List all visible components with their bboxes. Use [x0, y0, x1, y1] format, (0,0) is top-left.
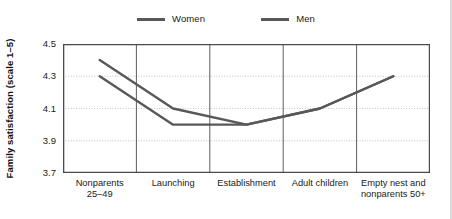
y-tick-label-3.9: 3.9 — [43, 136, 56, 146]
legend-label-women: Women — [172, 14, 205, 24]
y-axis-tick-labels: 4.54.34.13.93.7 — [20, 38, 60, 179]
x-tick-label-4: Empty nest and nonparents 50+ — [357, 176, 430, 216]
legend-line-swatch-women — [137, 18, 165, 21]
gridlines — [63, 44, 430, 141]
y-axis-title-text: Family satisfaction (scale 1–5) — [5, 38, 16, 178]
y-tick-label-4.3: 4.3 — [43, 72, 56, 82]
y-axis-title: Family satisfaction (scale 1–5) — [2, 38, 18, 178]
plot-area — [63, 44, 430, 173]
series-lines — [100, 60, 394, 125]
y-tick-label-4.1: 4.1 — [43, 104, 56, 114]
legend-entry-men: Men — [261, 14, 315, 24]
legend-entry-women: Women — [137, 14, 205, 24]
x-tick-label-3: Adult children — [283, 176, 356, 216]
series-line-men — [100, 76, 394, 124]
x-tick-label-2: Establishment — [210, 176, 283, 216]
y-tick-label-4.5: 4.5 — [43, 39, 56, 49]
x-tick-label-1: Launching — [136, 176, 209, 216]
chart-figure: Women Men Family satisfaction (scale 1–5… — [0, 0, 452, 219]
chart-legend: Women Men — [0, 8, 452, 30]
x-axis-tick-labels: Nonparents 25–49LaunchingEstablishmentAd… — [63, 176, 430, 216]
plot-svg — [63, 44, 430, 173]
legend-label-men: Men — [296, 14, 315, 24]
x-tick-label-0: Nonparents 25–49 — [63, 176, 136, 216]
series-line-women — [100, 60, 394, 125]
legend-line-swatch-men — [261, 18, 289, 21]
y-tick-label-3.7: 3.7 — [43, 168, 56, 178]
